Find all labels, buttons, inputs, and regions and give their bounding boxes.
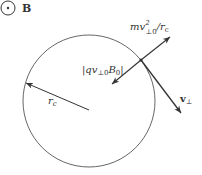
field-out-of-page-icon — [1, 1, 15, 15]
radius-label: rc — [48, 95, 57, 108]
gyration-diagram: B rc mv2⊥0/rc |qv⊥0B0| v⊥ — [0, 0, 202, 175]
radius-arrow — [26, 83, 89, 110]
centripetal-force-arrow — [141, 37, 170, 60]
velocity-label: v⊥ — [179, 93, 192, 106]
centripetal-force-label: mv2⊥0/rc — [130, 19, 169, 36]
field-label: B — [22, 2, 31, 15]
lorentz-force-label: |qv⊥0B0| — [82, 64, 124, 77]
orbit-circle — [23, 35, 155, 167]
velocity-arrow — [141, 60, 181, 113]
